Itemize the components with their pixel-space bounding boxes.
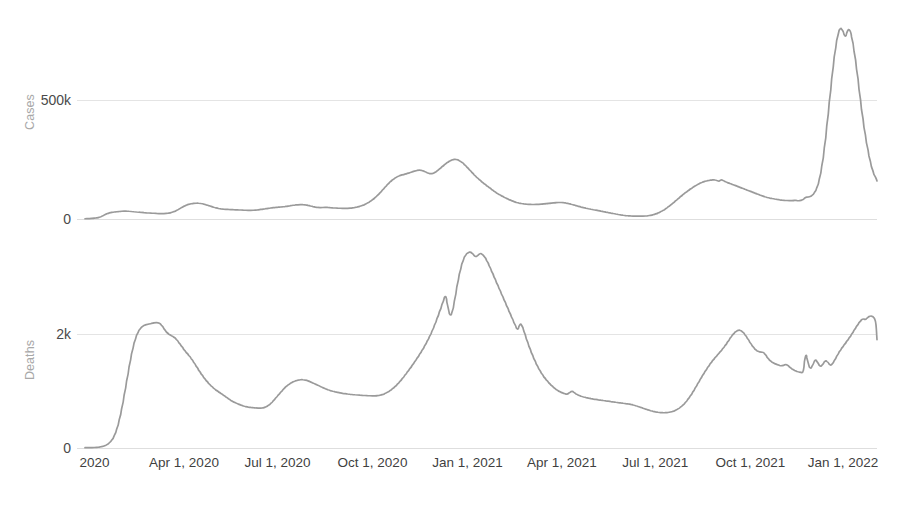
x-tick-label: 2020 — [79, 455, 109, 470]
chart-background — [0, 0, 906, 507]
deaths-y-tick: 0 — [63, 440, 71, 456]
x-tick-label: Oct 1, 2020 — [338, 455, 408, 470]
x-tick-label: Oct 1, 2021 — [715, 455, 785, 470]
cases-y-tick: 500k — [41, 92, 72, 108]
x-tick-label: Apr 1, 2021 — [527, 455, 597, 470]
deaths-axis-label: Deaths — [23, 340, 37, 380]
x-axis: 2020Apr 1, 2020Jul 1, 2020Oct 1, 2020Jan… — [79, 455, 878, 470]
x-tick-label: Jan 1, 2021 — [432, 455, 503, 470]
covid-trends-chart: 0500k Cases 02k Deaths 2020Apr 1, 2020Ju… — [0, 0, 906, 507]
cases-axis-label: Cases — [23, 94, 37, 130]
x-tick-label: Jul 1, 2020 — [244, 455, 310, 470]
x-tick-labels: 2020Apr 1, 2020Jul 1, 2020Oct 1, 2020Jan… — [79, 455, 878, 470]
x-tick-label: Apr 1, 2020 — [149, 455, 219, 470]
chart-canvas: 0500k Cases 02k Deaths 2020Apr 1, 2020Ju… — [0, 0, 906, 507]
x-tick-label: Jan 1, 2022 — [808, 455, 879, 470]
deaths-y-tick: 2k — [56, 326, 72, 342]
cases-y-tick: 0 — [63, 211, 71, 227]
x-tick-label: Jul 1, 2021 — [622, 455, 688, 470]
